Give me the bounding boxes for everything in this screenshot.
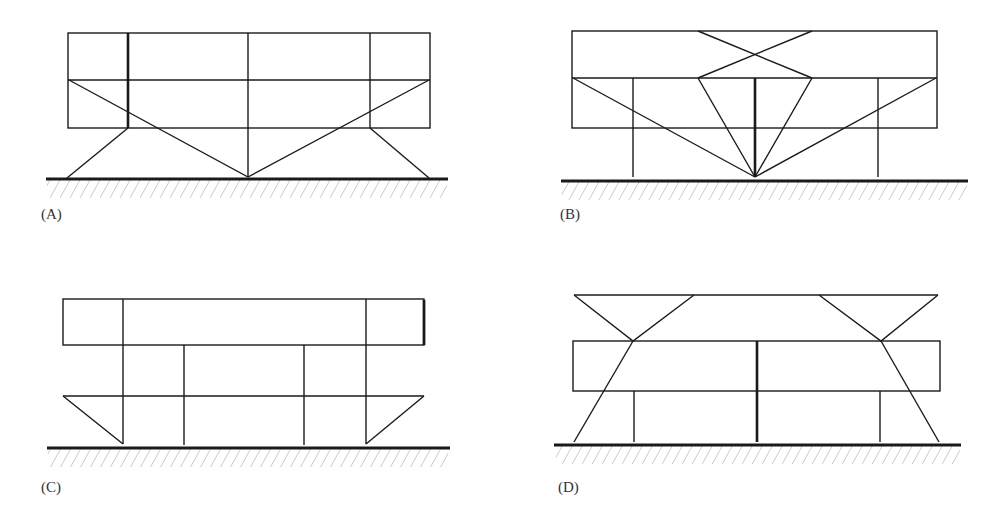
right-triangle-brace	[366, 396, 424, 444]
right-leg	[370, 128, 429, 178]
panel-d: (D)	[554, 295, 961, 496]
left-triangle-brace	[63, 396, 123, 444]
panel-label-b: (B)	[560, 206, 580, 223]
top-frame	[63, 299, 424, 345]
ground-hatch	[562, 182, 967, 200]
panel-a: (A)	[41, 33, 448, 223]
panel-label-d: (D)	[558, 479, 579, 496]
panel-c: (C)	[41, 299, 450, 496]
ground-hatch	[556, 446, 960, 464]
left-leg	[67, 128, 128, 178]
panel-label-a: (A)	[41, 206, 62, 223]
ground-hatch	[48, 449, 448, 467]
structural-frames-figure: (A) (B) (C)	[0, 0, 997, 511]
panel-label-c: (C)	[41, 479, 61, 496]
ground-hatch	[47, 180, 447, 198]
right-v-brace	[819, 295, 938, 341]
panel-b: (B)	[560, 31, 968, 223]
left-v-brace	[574, 295, 694, 341]
